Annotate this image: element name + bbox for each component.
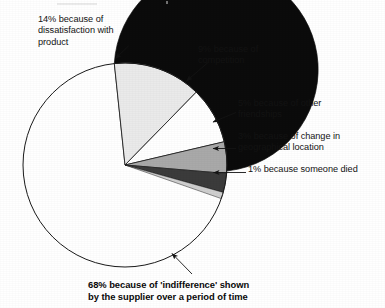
leader-line-indifference bbox=[172, 254, 192, 275]
callout-label-geographical: 3% because of change in geographical loc… bbox=[238, 131, 378, 154]
callout-label-died: 1% because someone died bbox=[248, 164, 380, 175]
pie-chart-figure: 14% because of dissatisfaction with prod… bbox=[0, 0, 385, 308]
callout-label-competition: 9% because of competition bbox=[198, 44, 308, 67]
callout-label-dissatisfaction: 14% because of dissatisfaction with prod… bbox=[38, 14, 150, 48]
caption-indifference: 68% because of 'indifference' shown by t… bbox=[88, 279, 328, 303]
scan-artifact bbox=[166, 1, 168, 4]
callout-label-friendships: 5% because of other friendships bbox=[238, 98, 368, 121]
scan-artifact bbox=[57, 3, 97, 5]
